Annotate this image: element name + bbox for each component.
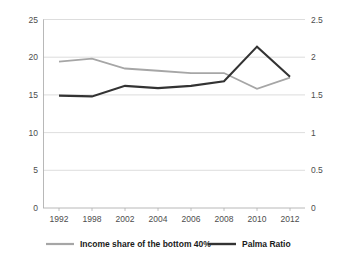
y-left-tick-label-25: 25 [29,15,39,25]
y-right-tick-label-2: 2 [311,52,316,62]
x-tick-label-2006: 2006 [182,214,201,224]
x-tick-label-2012: 2012 [281,214,300,224]
axes [43,20,305,209]
y-left-tick-label-15: 15 [29,90,39,100]
legend-label-palma-ratio: Palma Ratio [242,239,291,249]
x-tick-label-1992: 1992 [50,214,69,224]
legend-label-income-share: Income share of the bottom 40% [80,239,211,249]
y-right-tick-label-2point5: 2.5 [311,15,323,25]
y-axis-left-labels: 25 20 15 10 5 0 [29,15,39,214]
y-left-tick-label-0: 0 [33,203,38,213]
legend: Income share of the bottom 40% Palma Rat… [46,239,291,249]
x-tick-label-2010: 2010 [248,214,267,224]
y-right-tick-label-1: 1 [311,128,316,138]
y-left-tick-label-10: 10 [29,128,39,138]
gridlines [43,20,305,171]
x-tick-label-2004: 2004 [149,214,168,224]
series-lines [59,47,290,97]
line-chart: 25 20 15 10 5 0 2.5 2 1.5 1 0.5 0 1992 1… [0,0,342,262]
y-right-tick-label-0point5: 0.5 [311,165,323,175]
x-tick-label-2008: 2008 [215,214,234,224]
y-left-tick-label-5: 5 [33,165,38,175]
y-left-tick-label-20: 20 [29,52,39,62]
y-right-tick-label-0: 0 [311,203,316,213]
series-line-income-share [59,59,290,89]
x-tick-label-2002: 2002 [116,214,135,224]
x-axis-labels: 1992 1998 2002 2004 2006 2008 2010 2012 [50,214,300,224]
x-tick-label-1998: 1998 [83,214,102,224]
y-right-tick-label-1point5: 1.5 [311,90,323,100]
chart-container: 25 20 15 10 5 0 2.5 2 1.5 1 0.5 0 1992 1… [0,0,342,262]
y-axis-right-labels: 2.5 2 1.5 1 0.5 0 [311,15,323,214]
